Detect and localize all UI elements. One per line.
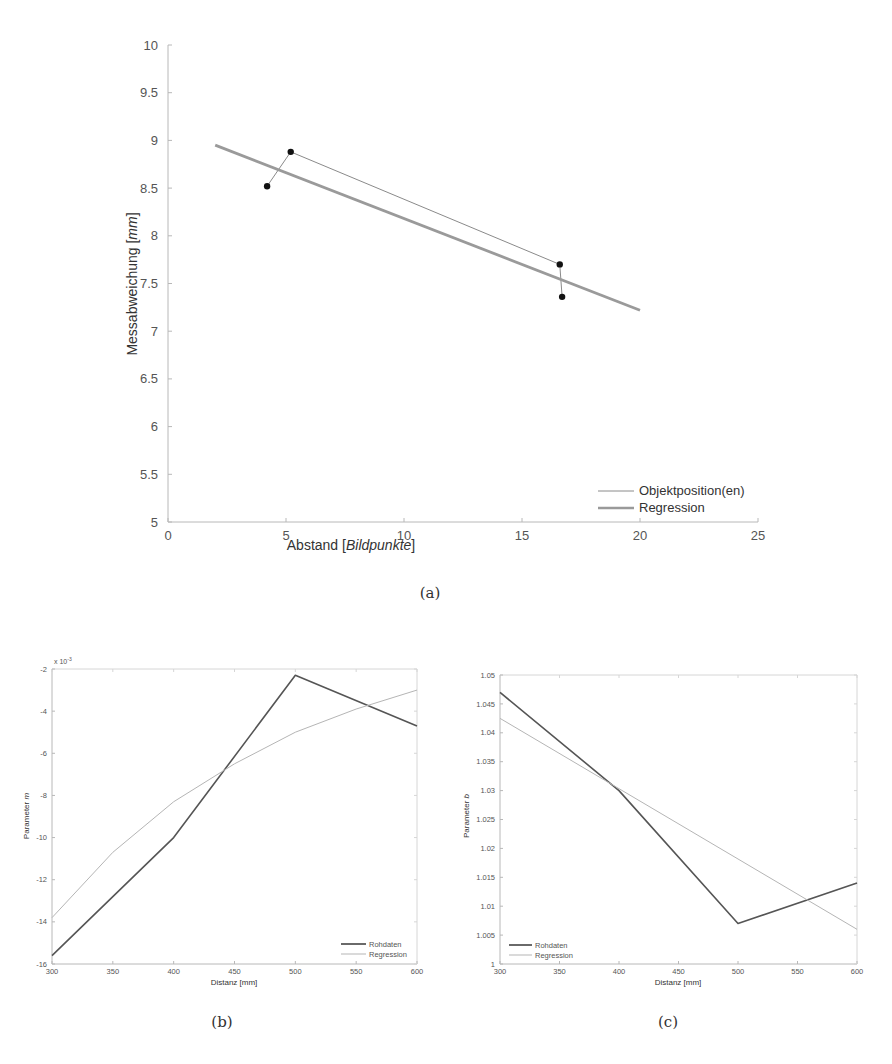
series-regression <box>215 145 640 310</box>
x-tick-label: 500 <box>732 967 745 976</box>
chart-a-x-axis-title: Abstand [Bildpunkte] <box>287 537 415 553</box>
y-tick-label: 7 <box>151 324 158 339</box>
chart-a-ticks: 051015202555.566.577.588.599.510 <box>140 38 765 543</box>
x-tick-label: 0 <box>164 528 171 543</box>
legend-regression-label: Regression <box>639 500 705 515</box>
y-tick-label: 8.5 <box>140 181 158 196</box>
y-tick-label: 1 <box>491 960 495 969</box>
y-tick-label: 1.04 <box>480 728 495 737</box>
chart-b-legend: Rohdaten Regression <box>341 940 407 959</box>
chart-c-parameter-b: 30035040045050055060011.0051.011.0151.02… <box>462 671 863 1031</box>
y-tick-label: 6 <box>151 419 158 434</box>
series-objektposition-en <box>267 152 562 297</box>
y-tick-label: -12 <box>36 875 47 884</box>
caption-a: (a) <box>420 584 441 602</box>
y-tick-label: 9.5 <box>140 85 158 100</box>
y-tick-label: -10 <box>36 833 47 842</box>
y-tick-label: -6 <box>40 749 47 758</box>
legend-regression-label: Regression <box>535 951 573 960</box>
x-tick-label: 500 <box>289 967 302 976</box>
y-tick-label: 1.045 <box>476 700 495 709</box>
y-tick-label: 1.025 <box>476 815 495 824</box>
caption-b: (b) <box>211 1013 232 1031</box>
chart-a-legend: Objektposition(en) Regression <box>598 483 745 515</box>
series-rohdaten <box>52 675 417 955</box>
legend-regression-label: Regression <box>369 950 407 959</box>
chart-b-y-exponent: x 10-3 <box>54 656 72 665</box>
data-point-marker <box>264 183 270 189</box>
y-tick-label: 9 <box>151 133 158 148</box>
y-tick-label: 5 <box>151 515 158 530</box>
x-tick-label: 600 <box>411 967 424 976</box>
series-rohdaten <box>500 692 857 923</box>
series-regression <box>500 718 857 929</box>
x-tick-label: 300 <box>46 967 59 976</box>
chart-b-x-axis-title: Distanz [mm] <box>211 978 258 987</box>
x-tick-label: 450 <box>672 967 685 976</box>
x-tick-label: 450 <box>228 967 241 976</box>
y-tick-label: 1.02 <box>480 844 495 853</box>
x-tick-label: 25 <box>751 528 765 543</box>
legend-rohdaten-label: Rohdaten <box>369 940 402 949</box>
chart-c-ticks: 30035040045050055060011.0051.011.0151.02… <box>476 671 863 976</box>
y-tick-label: 8 <box>151 228 158 243</box>
chart-b-y-axis-title: Parameter m <box>22 793 31 840</box>
y-tick-label: 1.05 <box>480 671 495 680</box>
legend-rohdaten-label: Rohdaten <box>535 941 568 950</box>
y-tick-label: 7.5 <box>140 276 158 291</box>
chart-a-measurement-deviation: 051015202555.566.577.588.599.510 Abstand… <box>124 38 765 602</box>
x-tick-label: 300 <box>494 967 507 976</box>
data-point-marker <box>559 294 565 300</box>
chart-b-ticks: 300350400450500550600-16-14-12-10-8-6-4-… <box>36 665 423 976</box>
x-tick-label: 550 <box>791 967 804 976</box>
y-tick-label: 10 <box>144 38 158 53</box>
y-tick-label: 6.5 <box>140 371 158 386</box>
data-point-marker <box>288 149 294 155</box>
x-tick-label: 600 <box>851 967 864 976</box>
x-tick-label: 15 <box>515 528 529 543</box>
y-tick-label: 1.03 <box>480 786 495 795</box>
x-tick-label: 550 <box>350 967 363 976</box>
y-tick-label: 1.035 <box>476 757 495 766</box>
legend-objektposition-label: Objektposition(en) <box>639 483 745 498</box>
chart-b-axes <box>52 669 417 964</box>
x-tick-label: 350 <box>553 967 566 976</box>
y-tick-label: 5.5 <box>140 467 158 482</box>
y-tick-label: -8 <box>40 791 47 800</box>
x-tick-label: 350 <box>107 967 120 976</box>
series-regression <box>52 690 417 918</box>
chart-c-legend: Rohdaten Regression <box>509 941 573 960</box>
chart-a-series <box>215 145 640 310</box>
x-tick-label: 400 <box>613 967 626 976</box>
chart-c-axes <box>500 675 857 964</box>
chart-c-series <box>500 692 857 929</box>
caption-c: (c) <box>658 1013 678 1031</box>
y-tick-label: -2 <box>40 665 47 674</box>
y-tick-label: -16 <box>36 960 47 969</box>
chart-a-axes <box>168 45 758 522</box>
figure: 051015202555.566.577.588.599.510 Abstand… <box>0 0 892 1064</box>
chart-a-y-axis-title: Messabweichung [mm] <box>124 212 140 355</box>
chart-c-y-axis-title: Parameter b <box>462 793 471 838</box>
chart-c-x-axis-title: Distanz [mm] <box>655 978 702 987</box>
x-tick-label: 20 <box>633 528 647 543</box>
y-tick-label: 1.015 <box>476 873 495 882</box>
y-tick-label: -4 <box>40 707 47 716</box>
y-tick-label: -14 <box>36 917 47 926</box>
y-tick-label: 1.01 <box>480 902 495 911</box>
x-tick-label: 400 <box>167 967 180 976</box>
chart-b-parameter-m: 300350400450500550600-16-14-12-10-8-6-4-… <box>22 656 423 1031</box>
chart-b-series <box>52 675 417 955</box>
data-point-marker <box>557 261 563 267</box>
y-tick-label: 1.005 <box>476 931 495 940</box>
